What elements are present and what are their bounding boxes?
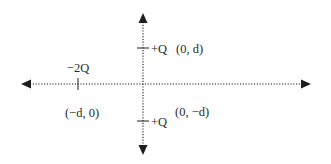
coord-label: (0, d): [176, 42, 203, 56]
arrow-left-icon: [21, 80, 31, 89]
arrow-right-icon: [301, 80, 311, 89]
arrow-up-icon: [139, 13, 148, 23]
charge-label: −2Q: [67, 61, 89, 75]
charge-diagram: −2Q (−d, 0) +Q (0, d) +Q (0, −d): [0, 0, 331, 164]
coord-label: (0, −d): [175, 105, 209, 119]
charge-label: +Q: [151, 115, 167, 129]
charge-bottom: +Q (0, −d): [137, 105, 209, 129]
x-axis: [21, 80, 311, 89]
charge-left: −2Q (−d, 0): [65, 61, 99, 120]
charge-label: +Q: [151, 42, 167, 56]
arrow-down-icon: [139, 145, 148, 155]
charge-top: +Q (0, d): [137, 42, 203, 56]
coord-label: (−d, 0): [65, 106, 99, 120]
